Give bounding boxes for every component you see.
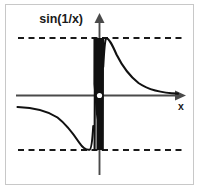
left-branch-curve (18, 107, 94, 150)
figure-container: sin(1/x) x (0, 0, 199, 190)
x-axis-label: x (178, 100, 184, 112)
right-branch-curve (103, 38, 178, 93)
x-axis-arrowhead (175, 91, 186, 101)
y-axis-arrowhead (95, 13, 105, 23)
plot-canvas: sin(1/x) x (0, 0, 199, 190)
chart-title: sin(1/x) (39, 12, 83, 26)
origin-open-point (97, 93, 102, 98)
